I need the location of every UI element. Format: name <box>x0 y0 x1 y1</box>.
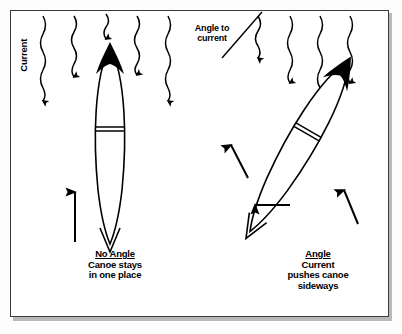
current-arrow-3 <box>104 14 109 39</box>
current-arrow-7 <box>288 16 293 83</box>
current-arrow-1 <box>41 16 46 101</box>
caption-no-angle: No Angle Canoe stays in one place <box>60 249 170 281</box>
caption-angle: Angle Current pushes canoe sideways <box>258 249 378 292</box>
current-arrow-2 <box>72 16 77 77</box>
arrow-right-canoe-stern-push <box>344 190 358 224</box>
canoe-left-hull <box>95 46 124 244</box>
angle-label-line-2: current <box>197 33 227 43</box>
current-arrow-4 <box>135 16 140 75</box>
angle-label-line-1: Angle to <box>195 23 229 33</box>
current-arrow-5 <box>166 16 171 101</box>
angle-to-current-label: Angle to current <box>185 23 239 43</box>
current-arrow-6 <box>256 16 261 58</box>
canoe-right-angled <box>233 49 364 246</box>
current-label: Current <box>19 25 30 85</box>
caption-no-angle-line-2: in one place <box>60 270 170 281</box>
arrow-right-canoe-paddle <box>231 145 248 178</box>
canoe-right-hull <box>237 53 361 239</box>
canoe-left-no-angle <box>95 42 125 252</box>
figure-root: Current Angle to current No Angle Canoe … <box>0 0 402 334</box>
caption-angle-line-3: sideways <box>258 281 378 292</box>
